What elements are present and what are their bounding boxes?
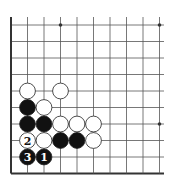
black-stone — [53, 133, 69, 149]
white-stone — [86, 116, 102, 132]
black-stone — [36, 116, 52, 132]
white-stone — [36, 100, 52, 116]
white-stone — [86, 133, 102, 149]
move-number-label: 1 — [40, 151, 48, 164]
white-stone — [20, 83, 36, 99]
star-point — [158, 122, 162, 126]
black-stone — [20, 100, 36, 116]
white-stone — [36, 133, 52, 149]
move-number-label: 2 — [24, 135, 32, 148]
go-board: 231 — [0, 0, 174, 188]
white-stone: 2 — [20, 133, 36, 149]
white-stone — [53, 83, 69, 99]
star-point — [59, 23, 63, 27]
black-stone — [69, 133, 85, 149]
star-point — [158, 23, 162, 27]
move-number-label: 3 — [24, 151, 32, 164]
black-stone: 1 — [36, 149, 52, 165]
white-stone — [69, 116, 85, 132]
black-stone: 3 — [20, 149, 36, 165]
black-stone — [20, 116, 36, 132]
white-stone — [53, 116, 69, 132]
